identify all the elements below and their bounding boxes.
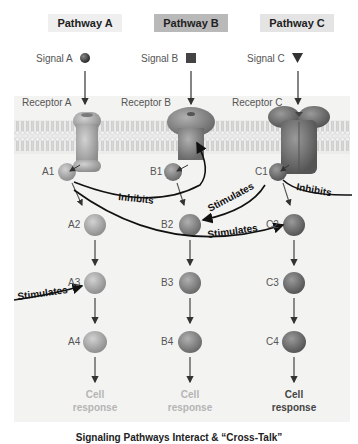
pathway-diagram: Inhibits Stimulates Stimulates Inhibits …: [0, 0, 358, 444]
step-c4-label: C4: [266, 336, 279, 347]
step-a4-label: A4: [68, 336, 80, 347]
cell-response-b: Cell response: [155, 388, 225, 414]
step-b4-label: B4: [161, 336, 173, 347]
step-b1-label: B1: [150, 166, 162, 177]
inhibits-label-4: Inhibits: [296, 181, 333, 198]
step-c2-label: C2: [266, 219, 279, 230]
cell-response-a: Cell response: [60, 388, 130, 414]
cell-response-c-line1: Cell: [259, 388, 329, 401]
cell-response-a-line2: response: [60, 401, 130, 414]
step-c3-label: C3: [266, 277, 279, 288]
inhibits-label-1: Inhibits: [118, 191, 155, 206]
step-b2-label: B2: [161, 219, 173, 230]
cell-response-b-line2: response: [155, 401, 225, 414]
stimulates-label-2: Stimulates: [207, 222, 259, 240]
signal-b-square-icon: [186, 53, 196, 63]
stimulates-label-5: Stimulates: [17, 284, 69, 302]
step-b3-label: B3: [161, 277, 173, 288]
cell-response-c-line2: response: [259, 401, 329, 414]
stimulates-label-3: Stimulates: [206, 180, 256, 214]
signal-c-triangle-icon: [292, 53, 303, 63]
step-a3-label: A3: [68, 277, 80, 288]
figure-caption: Signaling Pathways Interact & “Cross-Tal…: [0, 432, 358, 443]
step-a2-label: A2: [68, 219, 80, 230]
step-a1-label: A1: [42, 166, 54, 177]
step-c1-label: C1: [255, 166, 268, 177]
cell-response-a-line1: Cell: [60, 388, 130, 401]
cell-response-b-line1: Cell: [155, 388, 225, 401]
receptor-a-protein: [73, 112, 101, 172]
signal-a-sphere-icon: [80, 53, 90, 63]
cell-response-c: Cell response: [259, 388, 329, 414]
